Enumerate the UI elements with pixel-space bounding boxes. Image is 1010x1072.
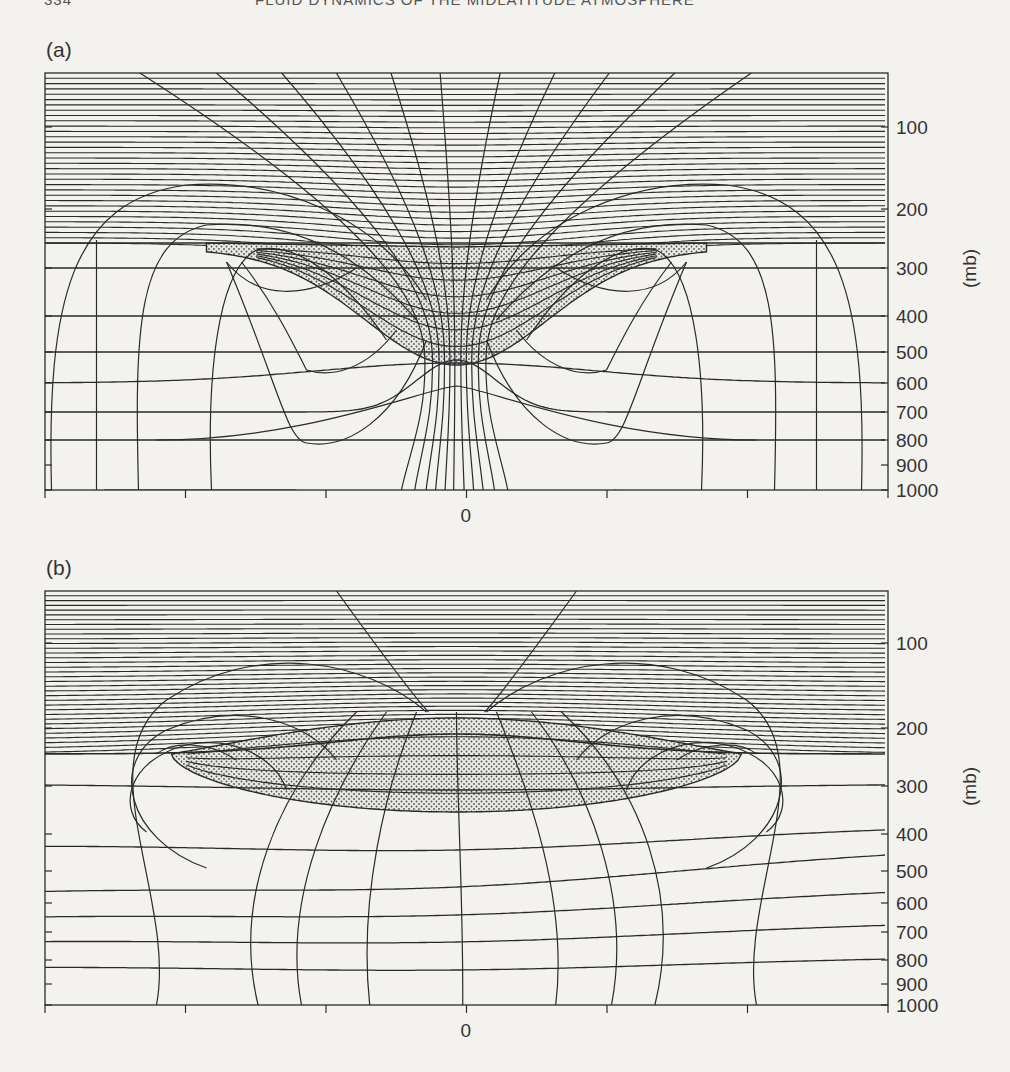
y-tick-label: 900 (896, 455, 928, 476)
y-tick-label: 1000 (896, 480, 938, 501)
x-axis-zero-label: 0 (461, 505, 472, 526)
y-tick-label: 500 (896, 861, 928, 882)
y-tick-label: 400 (896, 824, 928, 845)
y-tick-label: 1000 (896, 995, 938, 1016)
panel-a-diagram: 01002003004005006007008009001000(mb) (45, 73, 980, 526)
y-tick-label: 800 (896, 430, 928, 451)
y-axis-unit-label: (mb) (959, 767, 980, 806)
y-tick-label: 300 (896, 258, 928, 279)
y-axis-unit-label: (mb) (959, 249, 980, 288)
y-tick-label: 200 (896, 718, 928, 739)
y-tick-label: 700 (896, 922, 928, 943)
y-tick-label: 500 (896, 342, 928, 363)
panel-b-diagram: 01002003004005006007008009001000(mb) (45, 591, 980, 1041)
y-tick-label: 100 (896, 633, 928, 654)
y-tick-label: 100 (896, 117, 928, 138)
y-tick-label: 700 (896, 402, 928, 423)
y-tick-label: 600 (896, 373, 928, 394)
figure-canvas: 01002003004005006007008009001000(mb) 010… (0, 0, 1010, 1072)
y-tick-label: 200 (896, 199, 928, 220)
x-axis-zero-label: 0 (461, 1020, 472, 1041)
y-tick-label: 900 (896, 974, 928, 995)
y-tick-label: 600 (896, 893, 928, 914)
y-tick-label: 800 (896, 950, 928, 971)
y-tick-label: 400 (896, 306, 928, 327)
y-tick-label: 300 (896, 776, 928, 797)
